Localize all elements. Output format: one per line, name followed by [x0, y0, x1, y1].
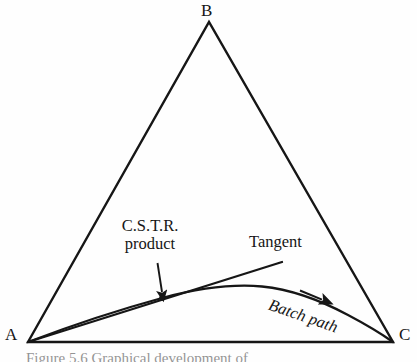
figure-caption: Figure 5.6 Graphical development of [26, 350, 406, 362]
batch-path-curve [28, 286, 393, 342]
cstr-callout-arrow [158, 263, 163, 292]
vertex-label-c: C [399, 325, 410, 344]
cstr-product-label: C.S.T.R. product [108, 217, 192, 254]
cstr-product-label-line2: product [108, 235, 192, 253]
figure-drawing [0, 0, 417, 362]
cstr-product-point [159, 295, 165, 301]
vertex-label-b: B [201, 1, 212, 20]
vertex-label-a: A [5, 325, 17, 344]
ternary-triangle [28, 22, 393, 342]
cstr-product-label-line1: C.S.T.R. [122, 216, 179, 235]
tangent-label: Tangent [249, 233, 302, 251]
ternary-batch-path-figure: A B C C.S.T.R. product Tangent Batch pat… [0, 0, 417, 362]
